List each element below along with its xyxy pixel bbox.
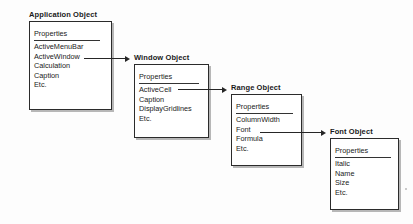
property-list-font: Italic Name Size Etc. [335,159,354,197]
property-item: DisplayGridlines [139,104,192,114]
object-model-diagram: Application Object Properties ActiveMenu… [0,0,413,224]
property-item: Size [335,178,354,188]
connector-range-to-font-line [260,132,322,133]
object-title-font: Font Object [330,127,373,136]
properties-divider-application [34,40,100,41]
properties-divider-range [236,113,293,114]
property-item: Formula [236,134,280,144]
property-item: Etc. [139,114,192,124]
properties-divider-window [139,83,199,84]
property-item: ColumnWidth [236,115,280,125]
properties-header-window: Properties [139,72,172,81]
property-item: Etc. [236,144,280,154]
connector-application-to-window-arrowhead [125,56,130,62]
property-item: Etc. [335,188,354,198]
property-list-range: ColumnWidth Font Formula Etc. [236,115,280,153]
properties-header-font: Properties [335,146,368,155]
property-item: Name [335,169,354,179]
property-item: ActiveMenuBar [34,42,83,52]
scan-artifact-speck [405,188,407,190]
properties-header-range: Properties [236,102,269,111]
properties-divider-font [335,157,391,158]
property-item: Etc. [34,80,83,90]
property-item: Caption [34,71,83,81]
property-item: Calculation [34,61,83,71]
property-list-application: ActiveMenuBar ActiveWindow Calculation C… [34,42,83,90]
property-item: Caption [139,95,192,105]
connector-range-to-font-arrowhead [321,130,326,136]
connector-window-to-range-line [178,89,223,90]
property-list-window: ActiveCell Caption DisplayGridlines Etc. [139,85,192,123]
object-title-range: Range Object [231,83,281,92]
connector-window-to-range-arrowhead [222,87,227,93]
object-title-window: Window Object [134,53,189,62]
object-title-application: Application Object [29,10,97,19]
properties-header-application: Properties [34,29,67,38]
connector-application-to-window-line [84,58,126,59]
property-item: ActiveWindow [34,52,83,62]
property-item: Italic [335,159,354,169]
